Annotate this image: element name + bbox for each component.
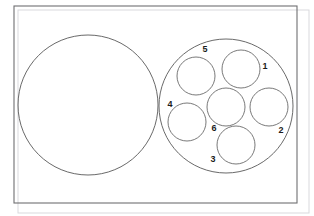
inner-circle-1 (222, 50, 260, 88)
inner-circle-label-2: 2 (278, 125, 283, 135)
inner-circle-4 (168, 103, 206, 141)
circle-packing-figure: 5 1 4 6 2 3 (0, 0, 314, 216)
inner-circle-label-1: 1 (262, 61, 267, 71)
inner-circle-label-5: 5 (202, 44, 207, 54)
diagram-root: 5 1 4 6 2 3 (0, 0, 314, 216)
inner-circle-2 (250, 88, 288, 126)
bounding-rectangle (14, 6, 297, 203)
inner-circle-label-3: 3 (210, 154, 215, 164)
inner-circle-6 (207, 88, 245, 126)
left-large-circle (18, 35, 158, 175)
inner-circle-5 (177, 57, 215, 95)
inner-circle-label-4: 4 (167, 99, 172, 109)
right-large-circle (159, 39, 293, 173)
inner-circle-3 (217, 126, 255, 164)
inner-circle-label-6: 6 (211, 123, 216, 133)
